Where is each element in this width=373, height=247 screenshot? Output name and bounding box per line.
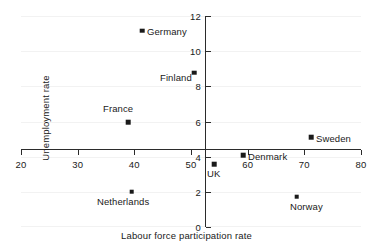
data-point-germany [140, 28, 145, 33]
data-label-uk: UK [207, 168, 220, 179]
gridline [21, 226, 361, 227]
x-tick-label: 30 [72, 159, 83, 170]
x-axis-title: Labour force participation rate [0, 230, 373, 241]
y-tick-label: 6 [196, 116, 201, 127]
y-tick-label: 10 [190, 46, 201, 57]
y-tick [206, 227, 211, 228]
x-tick [134, 150, 135, 155]
data-label-finland: Finland [160, 72, 192, 83]
data-point-sweden [309, 135, 314, 140]
data-label-norway: Norway [290, 201, 323, 212]
x-tick [361, 150, 362, 155]
data-label-netherlands: Netherlands [97, 196, 149, 207]
x-tick [21, 150, 22, 155]
y-tick-label: 8 [196, 81, 201, 92]
y-tick [206, 86, 211, 87]
data-label-france: France [103, 103, 133, 114]
gridline [21, 122, 361, 123]
y-tick-label: 4 [196, 151, 201, 162]
y-tick [206, 51, 211, 52]
y-tick [206, 122, 211, 123]
x-tick [191, 150, 192, 155]
data-label-germany: Germany [147, 26, 187, 37]
y-axis-title: Unemployment rate [40, 75, 51, 160]
data-label-sweden: Sweden [316, 133, 351, 144]
y-tick [206, 157, 211, 158]
x-tick-label: 20 [16, 159, 27, 170]
y-tick [206, 16, 211, 17]
x-tick-label: 80 [356, 159, 367, 170]
gridline [21, 86, 361, 87]
gridline [21, 192, 361, 193]
data-point-france [126, 120, 131, 125]
data-point-norway [294, 194, 299, 199]
x-tick-label: 70 [299, 159, 310, 170]
y-tick-label: 12 [190, 11, 201, 22]
cropped-top-text [22, 0, 222, 1]
data-label-denmark: Denmark [248, 151, 287, 162]
data-point-finland [192, 71, 197, 76]
gridline [21, 157, 361, 158]
data-point-netherlands [130, 189, 135, 194]
x-tick-label: 40 [129, 159, 140, 170]
x-tick [78, 150, 79, 155]
scatter-chart: 20 30 40 50 60 70 80 12 10 8 6 4 2 0 Ger… [0, 0, 373, 247]
y-tick-label: 2 [196, 186, 201, 197]
data-point-uk [212, 162, 217, 167]
y-tick [206, 192, 211, 193]
data-point-denmark [241, 153, 246, 158]
x-tick [304, 150, 305, 155]
